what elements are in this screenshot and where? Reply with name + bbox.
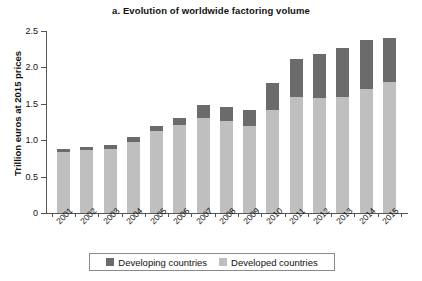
y-tick-label: 1.5 bbox=[25, 99, 38, 109]
y-tick-label: 0 bbox=[33, 208, 38, 218]
bar-segment-developed bbox=[173, 125, 186, 213]
bar-segment-developing bbox=[220, 107, 233, 121]
bar-segment-developed bbox=[127, 142, 140, 213]
x-tick-mark bbox=[75, 213, 76, 217]
legend-swatch-icon bbox=[219, 258, 227, 266]
y-tick-label: 1.0 bbox=[25, 135, 38, 145]
x-tick-mark bbox=[191, 213, 192, 217]
bar-2005[interactable] bbox=[150, 126, 163, 213]
chart-legend: Developing countriesDeveloped countries bbox=[89, 253, 335, 271]
bar-segment-developing bbox=[266, 83, 279, 109]
x-tick-mark bbox=[354, 213, 355, 217]
bar-2001[interactable] bbox=[57, 149, 70, 213]
y-axis-line bbox=[46, 31, 47, 214]
bar-2011[interactable] bbox=[290, 59, 303, 213]
legend-item-developed[interactable]: Developed countries bbox=[219, 257, 318, 268]
bar-2006[interactable] bbox=[173, 118, 186, 213]
x-tick-mark bbox=[52, 213, 53, 217]
x-tick-mark bbox=[145, 213, 146, 217]
bar-2007[interactable] bbox=[197, 105, 210, 213]
chart-title: a. Evolution of worldwide factoring volu… bbox=[0, 5, 422, 16]
x-tick-mark bbox=[215, 213, 216, 217]
bar-2013[interactable] bbox=[336, 48, 349, 213]
y-tick-label: 2.0 bbox=[25, 62, 38, 72]
x-tick-mark bbox=[122, 213, 123, 217]
x-tick-mark bbox=[308, 213, 309, 217]
y-tick-mark bbox=[41, 67, 46, 68]
bar-2009[interactable] bbox=[243, 110, 256, 213]
legend-label: Developed countries bbox=[231, 257, 318, 268]
bar-segment-developing bbox=[243, 110, 256, 125]
y-tick-mark bbox=[41, 104, 46, 105]
bar-segment-developed bbox=[220, 121, 233, 213]
y-tick-mark bbox=[41, 31, 46, 32]
bar-2003[interactable] bbox=[104, 145, 117, 213]
x-tick-mark bbox=[168, 213, 169, 217]
bar-segment-developing bbox=[173, 118, 186, 125]
bar-segment-developing bbox=[197, 105, 210, 118]
bar-2002[interactable] bbox=[80, 147, 93, 213]
y-tick-mark bbox=[41, 177, 46, 178]
bar-segment-developed bbox=[336, 97, 349, 213]
x-tick-mark bbox=[331, 213, 332, 217]
bar-segment-developed bbox=[266, 110, 279, 213]
x-tick-mark bbox=[378, 213, 379, 217]
x-tick-mark bbox=[238, 213, 239, 217]
y-tick-label: 2.5 bbox=[25, 26, 38, 36]
x-tick-mark bbox=[285, 213, 286, 217]
bar-segment-developed bbox=[57, 152, 70, 213]
bar-2010[interactable] bbox=[266, 83, 279, 213]
bar-2015[interactable] bbox=[383, 38, 396, 213]
bar-2008[interactable] bbox=[220, 107, 233, 213]
x-tick-mark bbox=[261, 213, 262, 217]
y-tick-mark bbox=[41, 213, 46, 214]
bar-2014[interactable] bbox=[360, 40, 373, 213]
bar-segment-developing bbox=[336, 48, 349, 98]
plot-area: 00.51.01.52.02.5 bbox=[46, 31, 408, 214]
y-tick-label: 0.5 bbox=[25, 172, 38, 182]
bar-segment-developed bbox=[80, 150, 93, 213]
bar-segment-developed bbox=[150, 131, 163, 213]
x-tick-mark bbox=[98, 213, 99, 217]
bar-segment-developing bbox=[383, 38, 396, 82]
chart-container: a. Evolution of worldwide factoring volu… bbox=[0, 0, 422, 281]
bar-segment-developing bbox=[360, 40, 373, 90]
bar-segment-developed bbox=[104, 149, 117, 213]
bar-segment-developing bbox=[290, 59, 303, 97]
bar-segment-developed bbox=[243, 126, 256, 213]
bar-2004[interactable] bbox=[127, 137, 140, 213]
bar-segment-developed bbox=[360, 89, 373, 213]
bar-segment-developing bbox=[313, 54, 326, 98]
bar-segment-developed bbox=[313, 98, 326, 213]
legend-label: Developing countries bbox=[118, 257, 207, 268]
y-tick-mark bbox=[41, 140, 46, 141]
bar-segment-developed bbox=[197, 118, 210, 213]
bar-2012[interactable] bbox=[313, 54, 326, 213]
x-tick-mark bbox=[401, 213, 402, 217]
legend-item-developing[interactable]: Developing countries bbox=[106, 257, 207, 268]
y-axis-title: Trillion euros at 2015 prices bbox=[12, 29, 23, 199]
bar-segment-developed bbox=[383, 82, 396, 213]
bar-segment-developed bbox=[290, 97, 303, 213]
legend-swatch-icon bbox=[106, 258, 114, 266]
